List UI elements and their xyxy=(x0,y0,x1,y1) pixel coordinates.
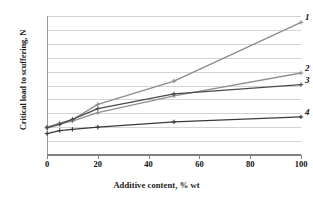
data-point-marker xyxy=(96,125,100,129)
x-axis-tick-label: 80 xyxy=(235,160,265,169)
x-axis-tick-mark xyxy=(47,155,48,159)
data-point-marker xyxy=(299,71,303,75)
x-axis-tick-mark xyxy=(199,155,200,159)
gridline xyxy=(47,155,301,156)
series-label-3: 3 xyxy=(305,76,310,85)
data-point-marker xyxy=(96,106,100,110)
x-axis-tick-label: 60 xyxy=(184,160,214,169)
x-axis-tick-label: 40 xyxy=(134,160,164,169)
series-line xyxy=(47,117,301,134)
data-point-marker xyxy=(58,128,62,132)
x-axis-tick-mark xyxy=(98,155,99,159)
line-chart: Critical load to scuffering, N 050100150… xyxy=(0,0,313,201)
y-axis-title: Critical load to scuffering, N xyxy=(18,5,28,155)
x-axis-tick-mark xyxy=(149,155,150,159)
plot-area: 050100150200250300350400450500 020406080… xyxy=(47,16,301,155)
x-axis-title: Additive content, % wt xyxy=(0,180,313,190)
data-point-marker xyxy=(172,120,176,124)
series-label-2: 2 xyxy=(305,64,310,73)
data-point-marker xyxy=(45,131,49,135)
x-axis-tick-mark xyxy=(301,155,302,159)
data-point-marker xyxy=(299,20,303,24)
series-line xyxy=(47,22,301,127)
x-axis-tick-label: 100 xyxy=(286,160,313,169)
data-point-marker xyxy=(172,79,176,83)
x-axis-tick-label: 20 xyxy=(83,160,113,169)
data-point-marker xyxy=(96,111,100,115)
x-axis-tick-mark xyxy=(250,155,251,159)
series-label-1: 1 xyxy=(305,13,310,22)
data-point-marker xyxy=(299,115,303,119)
data-point-marker xyxy=(70,127,74,131)
series-lines xyxy=(47,16,301,155)
data-point-marker xyxy=(299,82,303,86)
x-axis-tick-label: 0 xyxy=(32,160,62,169)
series-label-4: 4 xyxy=(305,108,310,117)
